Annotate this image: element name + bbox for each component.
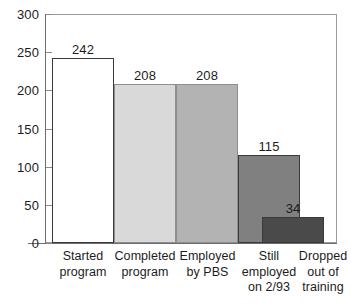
category-label-dropped-out: Dropped out of training	[295, 249, 351, 296]
bar-value-still-employed: 115	[238, 140, 300, 153]
category-label-completed-program: Completed program	[111, 249, 179, 280]
bar-dropped-out	[262, 217, 324, 243]
bar-value-started-program: 242	[52, 43, 114, 56]
bar-started-program	[52, 58, 114, 243]
category-label-employed-by-pbs: Employed by PBS	[176, 249, 239, 280]
bar-chart: 300 250 200 150 100 50 0 242 208 208 115…	[0, 0, 351, 305]
bar-value-dropped-out: 34	[262, 202, 324, 215]
category-label-started-program: Started program	[50, 249, 116, 280]
bar-employed-by-pbs	[176, 84, 238, 243]
bar-completed-program	[114, 84, 176, 243]
bar-value-employed-by-pbs: 208	[176, 69, 238, 82]
category-label-still-employed: Still employed on 2/93	[236, 249, 302, 296]
bar-value-completed-program: 208	[114, 69, 176, 82]
